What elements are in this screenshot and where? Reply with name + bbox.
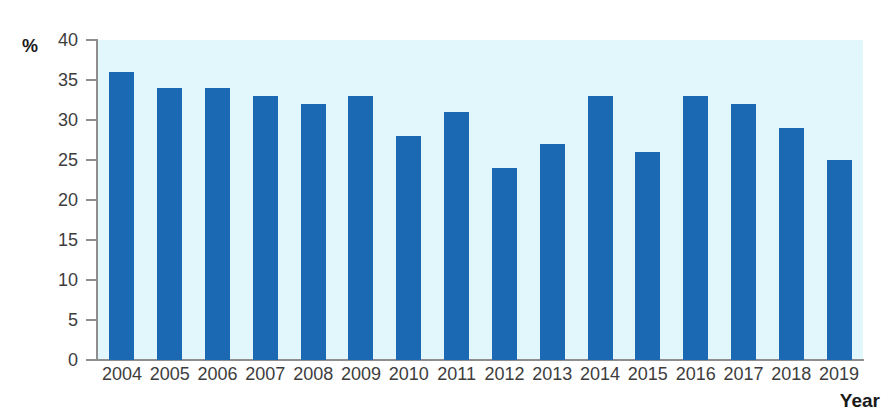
bar <box>396 136 421 360</box>
y-axis-tick-label: 5 <box>16 310 78 331</box>
bar <box>683 96 708 360</box>
x-axis-tick-label: 2007 <box>241 364 289 385</box>
bar <box>109 72 134 360</box>
bar <box>253 96 278 360</box>
bar <box>635 152 660 360</box>
y-axis-tick-label: 20 <box>16 190 78 211</box>
y-axis-tick <box>86 119 97 121</box>
x-axis-tick-label: 2006 <box>194 364 242 385</box>
y-axis-tick-label: 30 <box>16 110 78 131</box>
bar <box>731 104 756 360</box>
bar <box>444 112 469 360</box>
bar <box>588 96 613 360</box>
bar-chart: % 4035302520151050 200420052006200720082… <box>0 0 896 418</box>
y-axis-tick <box>86 199 97 201</box>
x-axis-tick-label: 2004 <box>98 364 146 385</box>
x-axis-tick-label: 2013 <box>528 364 576 385</box>
x-axis-title: Year <box>840 390 880 412</box>
y-axis-tick <box>86 319 97 321</box>
bar <box>301 104 326 360</box>
bar-series <box>98 40 863 360</box>
y-axis-tick-label: 10 <box>16 270 78 291</box>
x-axis-tick-label: 2008 <box>289 364 337 385</box>
y-axis-tick <box>86 239 97 241</box>
x-axis-tick-label: 2009 <box>337 364 385 385</box>
bar <box>205 88 230 360</box>
x-axis-tick-labels: 2004200520062007200820092010201120122013… <box>98 364 863 390</box>
y-axis-tick-label: 25 <box>16 150 78 171</box>
bar <box>157 88 182 360</box>
x-axis-tick-label: 2017 <box>720 364 768 385</box>
y-axis-tick <box>86 79 97 81</box>
y-axis-tick <box>86 159 97 161</box>
y-axis-tick-label: 40 <box>16 30 78 51</box>
x-axis-tick-label: 2012 <box>481 364 529 385</box>
x-axis-tick-label: 2016 <box>672 364 720 385</box>
x-axis-tick-label: 2019 <box>815 364 863 385</box>
y-axis-tick <box>86 359 97 361</box>
x-axis-tick-label: 2005 <box>146 364 194 385</box>
y-axis-tick <box>86 39 97 41</box>
x-axis-tick-label: 2011 <box>433 364 481 385</box>
y-axis-tick <box>86 279 97 281</box>
y-axis-tick-label: 0 <box>16 350 78 371</box>
bar <box>348 96 373 360</box>
y-axis-tick-label: 15 <box>16 230 78 251</box>
x-axis-tick-label: 2014 <box>576 364 624 385</box>
bar <box>779 128 804 360</box>
x-axis-tick-label: 2010 <box>385 364 433 385</box>
y-axis-tick-label: 35 <box>16 70 78 91</box>
bar <box>827 160 852 360</box>
bar <box>492 168 517 360</box>
bar <box>540 144 565 360</box>
x-axis-tick-label: 2015 <box>624 364 672 385</box>
x-axis-tick-label: 2018 <box>767 364 815 385</box>
